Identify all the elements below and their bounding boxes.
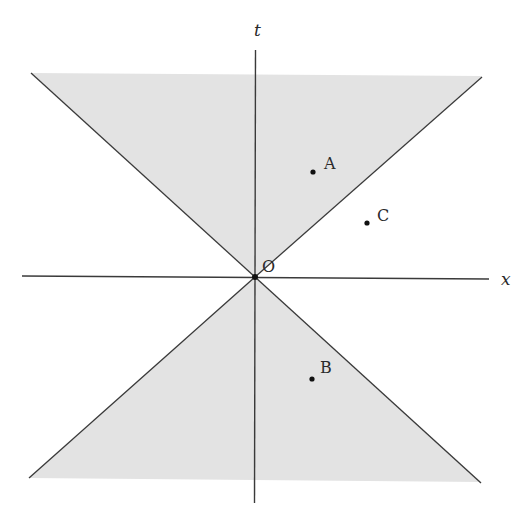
origin-point (252, 274, 258, 280)
origin-label: O (262, 257, 275, 276)
point-a-label: A (323, 154, 336, 173)
point-a (310, 169, 315, 174)
point-c-label: C (377, 206, 389, 225)
point-c (364, 220, 369, 225)
t-axis-label: t (254, 20, 261, 40)
point-b (309, 376, 314, 381)
future-light-cone (31, 73, 482, 277)
x-axis-label: x (501, 269, 511, 289)
point-b-label: B (320, 358, 332, 377)
light-cone-diagram: t x O A C B (0, 0, 526, 506)
